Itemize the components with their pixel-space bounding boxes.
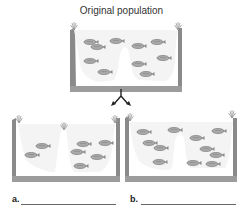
speciation-diagram [0, 0, 243, 210]
answer-label-b: b. [130, 194, 138, 204]
answer-label-a: a. [12, 194, 20, 204]
outcome-b-basin [125, 110, 237, 182]
answer-blank-a[interactable] [21, 204, 116, 205]
answer-blank-b[interactable] [141, 204, 236, 205]
original-population-basin [70, 22, 182, 92]
outcome-a-basin [12, 115, 120, 182]
